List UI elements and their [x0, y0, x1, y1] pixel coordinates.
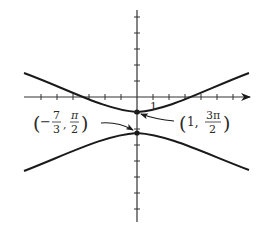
svg-text:1,: 1,: [187, 115, 198, 129]
svg-text:3π: 3π: [206, 109, 220, 122]
svg-text:−: −: [40, 114, 51, 129]
upper-vertex-dot: [134, 109, 139, 114]
svg-text:(: (: [179, 112, 186, 134]
svg-text:π: π: [70, 109, 79, 122]
lower-vertex-pointer-arrow: [101, 123, 133, 130]
svg-text:7: 7: [53, 109, 60, 122]
y-axis: [134, 10, 140, 222]
lower-vertex-label: ( − 7 3 , π 2 ): [33, 109, 88, 136]
hyperbola-figure: 1 ( − 7 3 , π 2 ) ( 1, 3π 2 ): [0, 0, 270, 237]
x-tick-label-1: 1: [150, 100, 157, 113]
svg-text:,: ,: [63, 118, 67, 131]
upper-vertex-label: ( 1, 3π 2 ): [179, 109, 230, 136]
lower-vertex-dot: [134, 130, 139, 135]
svg-text:2: 2: [71, 123, 78, 136]
svg-text:): ): [223, 112, 230, 134]
svg-text:2: 2: [209, 123, 216, 136]
svg-text:3: 3: [53, 123, 60, 136]
upper-vertex-pointer-arrow: [141, 114, 174, 121]
svg-text:): ): [81, 112, 88, 134]
